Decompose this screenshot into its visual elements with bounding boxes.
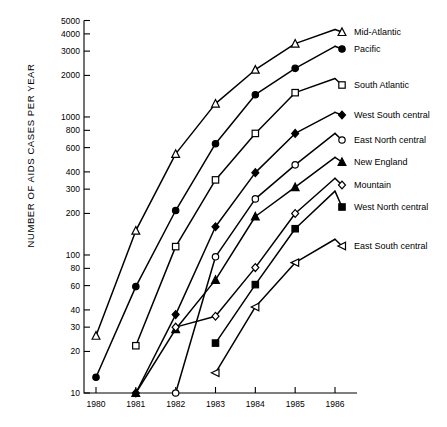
data-point-marker — [252, 130, 258, 136]
legend-marker-circle-open — [339, 137, 345, 143]
data-point-marker — [133, 343, 139, 349]
legend-label: East North central — [354, 135, 426, 145]
chart-figure: NUMBER OF AIDS CASES PER YEAR 1020304060… — [0, 0, 447, 427]
y-tick-label: 100 — [66, 250, 80, 260]
legend-entry-south-atlantic[interactable]: South Atlantic — [335, 78, 410, 90]
data-point-marker — [252, 281, 258, 287]
data-point-marker — [172, 311, 179, 319]
data-point-marker — [93, 374, 99, 380]
legend-label: West North central — [354, 202, 428, 212]
legend-marker-triangle-up-filled — [338, 158, 346, 166]
data-point-marker — [212, 340, 218, 346]
data-point-marker — [172, 390, 178, 396]
legend-label: Pacific — [354, 44, 381, 54]
legend-marker-circle-filled — [339, 46, 345, 52]
data-point-marker — [211, 369, 219, 376]
data-point-marker — [132, 227, 140, 235]
y-tick-label: 5000 — [61, 16, 80, 26]
y-tick-label: 600 — [66, 143, 80, 153]
x-tick-label: 1980 — [87, 399, 106, 409]
legend-entry-east-north-central[interactable]: East North central — [335, 133, 426, 145]
y-tick-label: 20 — [71, 346, 81, 356]
series-line — [216, 239, 336, 373]
data-point-marker — [292, 89, 298, 95]
axes-group — [84, 21, 357, 394]
y-tick-label: 10 — [71, 388, 81, 398]
y-tick-label: 40 — [71, 305, 81, 315]
legend-entry-mid-atlantic[interactable]: Mid-Atlantic — [335, 27, 402, 37]
y-axis-ticks: 1020304060801002003004006008001000200030… — [61, 16, 90, 399]
legend-entry-new-england[interactable]: New England — [335, 157, 408, 167]
data-point-marker — [292, 65, 298, 71]
y-tick-label: 2000 — [61, 70, 80, 80]
data-point-marker — [251, 212, 259, 220]
data-point-marker — [252, 91, 258, 97]
y-tick-label: 3000 — [61, 46, 80, 56]
y-tick-label: 4000 — [61, 29, 80, 39]
data-series-group — [92, 30, 335, 397]
y-tick-label: 30 — [71, 322, 81, 332]
data-point-marker — [251, 66, 259, 74]
y-tick-label: 300 — [66, 184, 80, 194]
legend-label: South Atlantic — [354, 80, 410, 90]
data-point-marker — [251, 303, 259, 310]
y-tick-label: 80 — [71, 263, 81, 273]
series-south-atlantic — [133, 78, 335, 348]
x-tick-label: 1983 — [206, 399, 225, 409]
y-tick-label: 800 — [66, 125, 80, 135]
legend-entry-west-south-central[interactable]: West South central — [335, 110, 430, 120]
data-point-marker — [92, 332, 100, 340]
y-tick-label: 200 — [66, 208, 80, 218]
x-axis-ticks: 1980198119821983198419851986 — [87, 387, 345, 409]
data-point-marker — [292, 226, 298, 232]
legend-marker-diamond-filled — [339, 111, 346, 119]
data-point-marker — [172, 207, 178, 213]
legend-label: East South central — [354, 241, 428, 251]
legend-label: Mid-Atlantic — [354, 27, 402, 37]
data-point-marker — [212, 177, 218, 183]
legend-entry-mountain[interactable]: Mountain — [335, 178, 391, 190]
series-line — [136, 157, 335, 393]
legend-label: West South central — [354, 110, 430, 120]
data-point-marker — [212, 141, 218, 147]
x-tick-label: 1985 — [286, 399, 305, 409]
data-point-marker — [172, 243, 178, 249]
chart-plot-area: 1020304060801002003004006008001000200030… — [0, 0, 447, 427]
legend-entry-east-south-central[interactable]: East South central — [335, 239, 428, 251]
data-point-marker — [212, 254, 218, 260]
x-tick-label: 1982 — [166, 399, 185, 409]
x-tick-label: 1984 — [246, 399, 265, 409]
x-tick-label: 1981 — [126, 399, 145, 409]
legend-group: Mid-AtlanticPacificSouth AtlanticWest So… — [335, 27, 430, 251]
data-point-marker — [292, 162, 298, 168]
data-point-marker — [252, 196, 258, 202]
series-line — [216, 191, 336, 343]
legend-entry-west-north-central[interactable]: West North central — [335, 191, 428, 212]
y-tick-label: 60 — [71, 281, 81, 291]
legend-label: Mountain — [354, 180, 391, 190]
legend-entry-pacific[interactable]: Pacific — [335, 44, 381, 54]
legend-marker-square-open — [339, 82, 345, 88]
series-line — [96, 46, 335, 377]
series-west-north-central — [212, 191, 335, 346]
legend-label: New England — [354, 157, 408, 167]
series-new-england — [132, 157, 335, 396]
axis-lines — [84, 21, 357, 394]
y-tick-label: 1000 — [61, 112, 80, 122]
y-tick-label: 400 — [66, 167, 80, 177]
data-point-marker — [133, 283, 139, 289]
x-tick-label: 1986 — [326, 399, 345, 409]
series-west-south-central — [132, 112, 335, 397]
legend-marker-square-filled — [339, 204, 345, 210]
series-line — [136, 112, 335, 393]
